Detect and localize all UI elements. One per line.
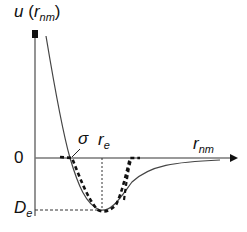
y-label-var: r xyxy=(34,2,40,21)
depth-label-var: D xyxy=(14,198,26,217)
depth-label: De xyxy=(14,198,32,218)
y-axis-arrow-icon xyxy=(32,30,38,38)
y-label-sub: nm xyxy=(40,11,55,23)
y-axis-label: u (rnm) xyxy=(14,2,61,22)
re-label-sub: e xyxy=(104,139,110,151)
sigma-label: σ xyxy=(78,129,88,149)
x-axis-arrow-icon xyxy=(230,154,238,162)
x-label-var: r xyxy=(193,134,199,153)
depth-label-sub: e xyxy=(26,207,32,219)
re-label-var: r xyxy=(98,130,104,149)
zero-label: 0 xyxy=(14,148,23,168)
y-label-paren-close: ) xyxy=(55,2,61,21)
re-label: re xyxy=(98,130,110,150)
sigma-pointer xyxy=(72,149,80,157)
lj-potential-curve xyxy=(46,36,220,210)
x-label-sub: nm xyxy=(199,143,214,155)
harmonic-approx-curve-inner xyxy=(124,160,131,200)
x-axis-label: rnm xyxy=(193,134,214,154)
potential-diagram xyxy=(0,0,247,232)
y-label-main: u xyxy=(14,2,23,21)
